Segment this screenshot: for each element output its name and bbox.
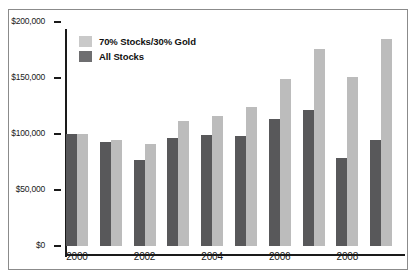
x-axis-tick-label: 2006 xyxy=(250,251,310,262)
y-axis-tick xyxy=(54,77,61,79)
bar-70-stocks-30-gold xyxy=(347,77,358,246)
y-axis-tick-label: $150,000 xyxy=(1,72,45,82)
bar-group xyxy=(235,22,257,246)
bar-all-stocks xyxy=(303,110,314,246)
bar-all-stocks xyxy=(66,134,77,246)
legend-swatch-icon xyxy=(79,36,92,47)
bar-group xyxy=(201,22,223,246)
bar-70-stocks-30-gold xyxy=(381,39,392,246)
legend-label: All Stocks xyxy=(99,51,144,62)
legend-item-all-stocks: All Stocks xyxy=(79,51,196,62)
bar-all-stocks xyxy=(134,160,145,246)
chart-figure: $0$50,000$100,000$150,000$200,000 200020… xyxy=(0,0,417,279)
y-axis-tick xyxy=(54,245,61,247)
bar-all-stocks xyxy=(167,138,178,246)
bar-all-stocks xyxy=(100,142,111,246)
bar-70-stocks-30-gold xyxy=(280,79,291,246)
legend-swatch-icon xyxy=(79,51,92,62)
x-axis-tick-label: 2000 xyxy=(47,251,107,262)
bar-group xyxy=(336,22,358,246)
bar-group xyxy=(303,22,325,246)
bar-70-stocks-30-gold xyxy=(145,144,156,246)
x-axis-tick-label: 2008 xyxy=(317,251,377,262)
y-axis-tick-label: $200,000 xyxy=(1,16,45,26)
bar-70-stocks-30-gold xyxy=(246,107,257,246)
x-axis-tick-label: 2002 xyxy=(115,251,175,262)
x-axis-tick-label: 2004 xyxy=(182,251,242,262)
bar-all-stocks xyxy=(235,136,246,246)
y-axis-tick xyxy=(54,21,61,23)
bar-all-stocks xyxy=(201,135,212,246)
bar-all-stocks xyxy=(370,140,381,246)
bar-70-stocks-30-gold xyxy=(111,140,122,246)
bar-all-stocks xyxy=(269,119,280,246)
y-axis-tick-label: $0 xyxy=(1,240,45,250)
y-axis-tick xyxy=(54,189,61,191)
bar-group xyxy=(370,22,392,246)
bar-70-stocks-30-gold xyxy=(212,116,223,246)
y-axis-tick xyxy=(54,133,61,135)
bar-70-stocks-30-gold xyxy=(314,49,325,246)
bar-70-stocks-30-gold xyxy=(77,134,88,246)
bar-70-stocks-30-gold xyxy=(178,121,189,246)
legend-item-70-stocks-30-gold: 70% Stocks/30% Gold xyxy=(79,36,196,47)
bar-group xyxy=(269,22,291,246)
bar-all-stocks xyxy=(336,158,347,246)
legend-label: 70% Stocks/30% Gold xyxy=(99,36,196,47)
chart-legend: 70% Stocks/30% Gold All Stocks xyxy=(79,36,196,66)
y-axis-tick-label: $100,000 xyxy=(1,128,45,138)
chart-frame: $0$50,000$100,000$150,000$200,000 200020… xyxy=(8,9,408,270)
y-axis-tick-label: $50,000 xyxy=(1,184,45,194)
